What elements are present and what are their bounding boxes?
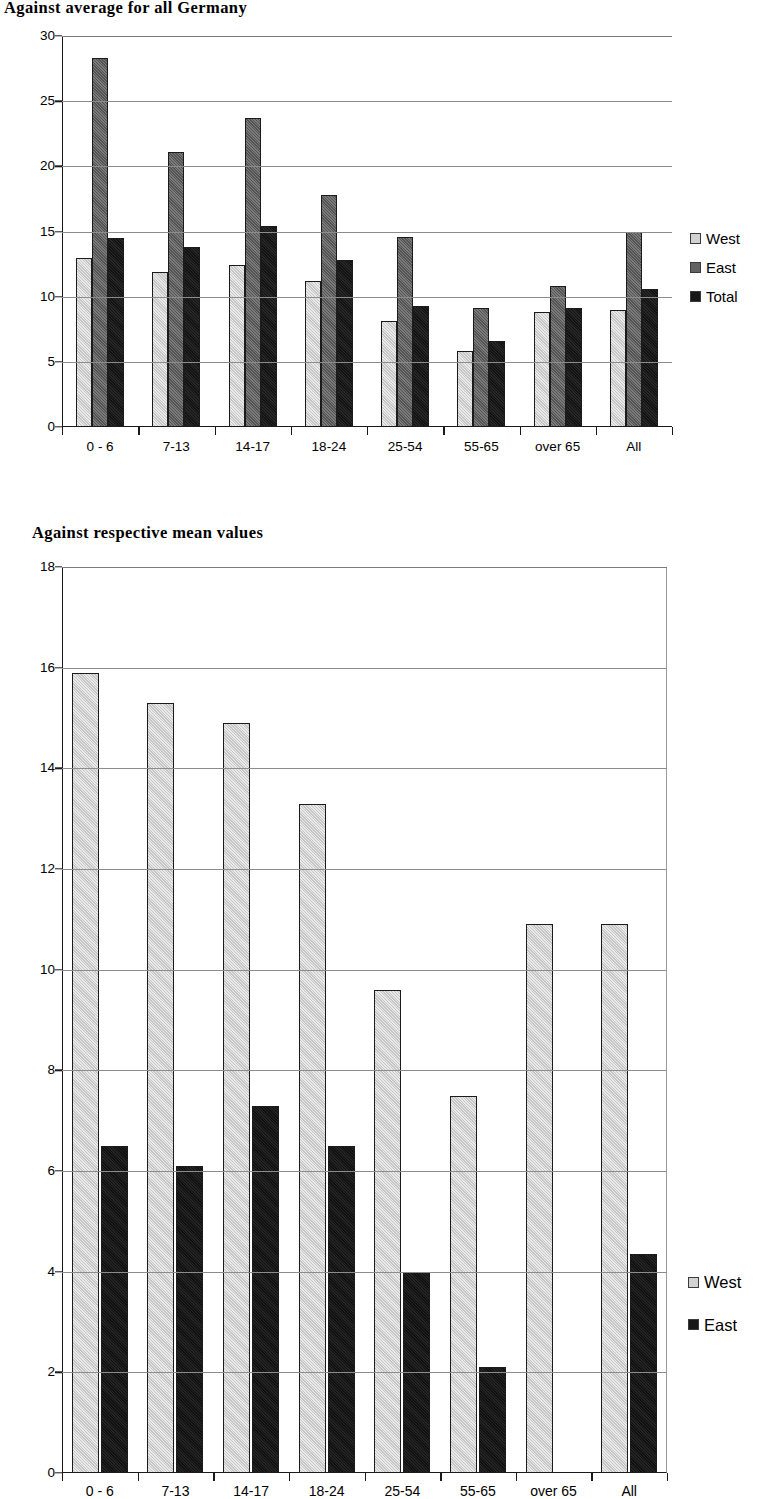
y-axis-tick-label: 10	[40, 290, 55, 304]
y-axis-tick-mark	[55, 426, 62, 427]
gridline	[62, 101, 672, 102]
x-axis-tick-label: 7-13	[161, 1484, 189, 1498]
bar-east	[479, 1367, 506, 1473]
y-axis-tick-label: 15	[40, 225, 55, 239]
bar-east	[630, 1254, 657, 1473]
legend-swatch-icon	[690, 233, 701, 244]
legend-item-east[interactable]: East	[688, 1317, 741, 1334]
legend-swatch-icon	[690, 262, 701, 273]
bar-total	[108, 238, 124, 427]
chart-against-average-germany: Against average for all Germany 05101520…	[0, 0, 764, 470]
gridline	[62, 668, 667, 669]
x-axis-tick-mark	[289, 1473, 290, 1481]
gridline	[62, 362, 672, 363]
y-axis-tick-mark	[55, 1170, 62, 1171]
gridline	[62, 1070, 667, 1071]
x-axis-tick-mark	[596, 427, 597, 435]
bar-group	[213, 567, 289, 1473]
gridline	[62, 567, 667, 568]
bar-west	[601, 924, 628, 1473]
bar-west	[534, 312, 550, 427]
x-axis-tick-mark	[516, 1473, 517, 1481]
chart2-title: Against respective mean values	[30, 523, 263, 543]
bar-west	[76, 258, 92, 427]
y-axis-tick-mark	[55, 768, 62, 769]
x-axis-tick-mark	[667, 1473, 668, 1481]
y-axis-tick-mark	[55, 1472, 62, 1473]
bar-west	[229, 265, 245, 427]
x-axis-tick-label: 25-54	[388, 440, 423, 454]
x-axis-tick-mark	[672, 427, 673, 435]
bar-group	[516, 567, 592, 1473]
bar-group-bars	[213, 567, 289, 1473]
x-axis-tick-label: over 65	[535, 440, 580, 454]
bar-group	[440, 567, 516, 1473]
x-axis-tick-mark	[62, 427, 63, 435]
x-axis-tick-mark	[138, 427, 139, 435]
x-axis-tick-mark	[62, 1473, 63, 1481]
y-axis-tick-label: 0	[47, 1466, 55, 1480]
bar-west	[305, 281, 321, 427]
legend-label: West	[706, 231, 740, 246]
y-axis-tick-label: 12	[40, 862, 55, 876]
bar-west	[374, 990, 401, 1473]
legend-label: East	[706, 260, 736, 275]
gridline	[62, 166, 672, 167]
x-axis-tick-label: 0 - 6	[87, 440, 114, 454]
bar-group	[138, 567, 214, 1473]
gridline	[62, 232, 672, 233]
gridline	[62, 1372, 667, 1373]
bar-east	[328, 1146, 355, 1473]
x-axis-tick-mark	[215, 427, 216, 435]
y-axis-tick-mark	[55, 566, 62, 567]
y-axis-tick-label: 16	[40, 661, 55, 675]
y-axis-tick-mark	[55, 231, 62, 232]
bar-east	[550, 286, 566, 427]
chart1-plot-area: 0510152025300 - 67-1314-1718-2425-5455-6…	[62, 36, 672, 427]
bar-group	[62, 567, 138, 1473]
gridline	[62, 869, 667, 870]
bar-west	[610, 310, 626, 427]
x-axis-tick-mark	[291, 427, 292, 435]
x-axis-tick-mark	[591, 1473, 592, 1481]
x-axis-tick-label: 18-24	[312, 440, 347, 454]
bar-west	[381, 321, 397, 427]
legend-label: East	[704, 1317, 737, 1334]
x-axis-tick-mark	[138, 1473, 139, 1481]
x-axis-tick-mark	[213, 1473, 214, 1481]
gridline	[62, 36, 672, 37]
y-axis-tick-mark	[55, 100, 62, 101]
legend-item-west[interactable]: West	[690, 231, 740, 246]
x-axis-tick-label: 18-24	[309, 1484, 345, 1498]
bar-group-bars	[138, 567, 214, 1473]
y-axis-tick-mark	[55, 361, 62, 362]
gridline	[62, 1272, 667, 1273]
bar-east	[252, 1106, 279, 1473]
bar-west	[223, 723, 250, 1473]
y-axis-tick-mark	[55, 969, 62, 970]
x-axis-tick-mark	[520, 427, 521, 435]
y-axis-tick-mark	[55, 1070, 62, 1071]
bar-total	[566, 308, 582, 427]
y-axis-tick-label: 5	[47, 355, 55, 369]
bar-east	[176, 1166, 203, 1473]
bar-total	[642, 289, 658, 427]
bar-west	[72, 673, 99, 1473]
bar-total	[489, 341, 505, 427]
legend-item-total[interactable]: Total	[690, 289, 740, 304]
legend-item-west[interactable]: West	[688, 1274, 741, 1291]
legend-label: Total	[706, 289, 738, 304]
bar-group	[365, 567, 441, 1473]
legend-label: West	[704, 1274, 741, 1291]
x-axis-tick-label: 55-65	[460, 1484, 496, 1498]
x-axis-tick-label: 25-54	[384, 1484, 420, 1498]
bar-group-bars	[365, 567, 441, 1473]
legend-item-east[interactable]: East	[690, 260, 740, 275]
bar-west	[147, 703, 174, 1473]
y-axis-tick-mark	[55, 35, 62, 36]
bar-total	[261, 226, 277, 427]
x-axis-tick-label: 14-17	[233, 1484, 269, 1498]
y-axis-tick-label: 4	[47, 1265, 55, 1279]
bar-group	[289, 567, 365, 1473]
bar-west	[450, 1096, 477, 1474]
